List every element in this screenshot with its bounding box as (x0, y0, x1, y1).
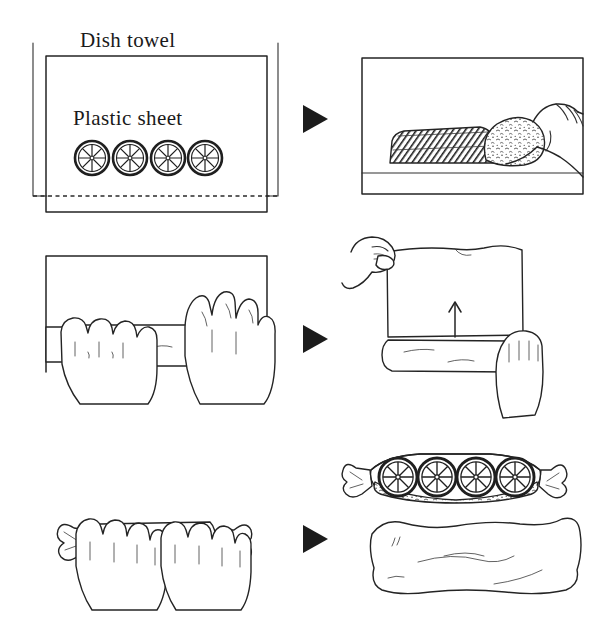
citrus-slice (75, 141, 109, 175)
citrus-slice (113, 141, 147, 175)
panel-step-6b (370, 518, 581, 593)
illustration-root: Dish towel Plastic sheet (0, 0, 599, 631)
panel-step-5 (57, 519, 252, 610)
citrus-slice (457, 458, 495, 496)
towel-wrapped-bundle (370, 518, 581, 593)
citrus-slice (496, 458, 534, 496)
citrus-slice (151, 141, 185, 175)
left-hand (61, 318, 157, 404)
left-hand (76, 519, 167, 610)
label-plastic-sheet: Plastic sheet (73, 106, 183, 130)
label-dish-towel: Dish towel (80, 28, 176, 52)
citrus-slice (188, 141, 222, 175)
citrus-slice (418, 458, 456, 496)
instructional-figure: Dish towel Plastic sheet (0, 0, 599, 631)
citrus-slice (379, 458, 417, 496)
right-hand (496, 331, 543, 418)
